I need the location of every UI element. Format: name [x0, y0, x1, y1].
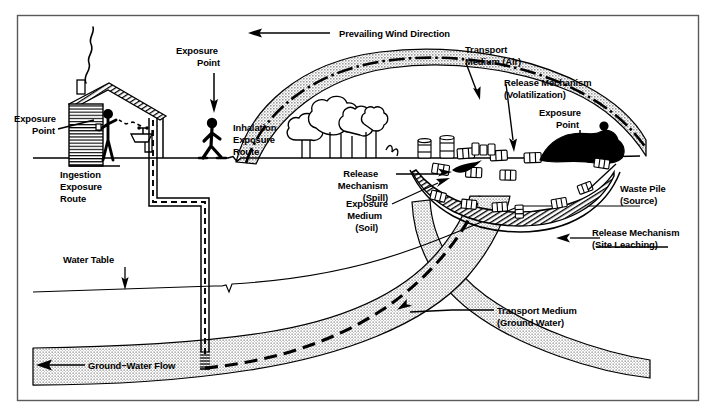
release-spill-label-line1: Release: [343, 168, 378, 179]
release-leaching-label-line2: (Site Leaching): [592, 239, 658, 250]
exposure-medium-soil-arrowhead: [436, 178, 450, 187]
ingestion-route-label-line3: Route: [60, 193, 86, 204]
exposure-point-worker-label-line1: Exposure: [539, 107, 581, 118]
release-leaching-arrowhead: [556, 234, 570, 243]
inhalation-route-label-line1: Inhalation: [233, 122, 277, 133]
exposure-point-house-label-line2: Point: [32, 125, 55, 136]
transport-air-arrowhead: [473, 86, 481, 100]
exposure-medium-soil-label-line3: (Soil): [355, 222, 378, 233]
release-volatilization-label-line2: (Volatilization): [504, 89, 566, 100]
transport-air-label-line2: Medium (Air): [465, 56, 521, 67]
prevailing-wind-arrow: [248, 28, 330, 37]
transport-groundwater-label-line2: (Ground Water): [497, 317, 564, 328]
release-spill-label-line2: Mechanism: [338, 180, 388, 191]
exposure-point-worker-label-line2: Point: [556, 119, 579, 130]
person-walking-icon: [199, 118, 226, 158]
ingestion-dashed-path: [119, 120, 141, 126]
inhalation-route-label-line3: Route: [233, 146, 259, 157]
water-well-icon: [149, 118, 210, 369]
transport-groundwater-label-line1: Transport Medium: [497, 305, 577, 316]
exposure-medium-soil-label-line1: Exposure: [346, 198, 388, 209]
smoke-icon: [85, 27, 93, 83]
transport-air-label-line1: Transport: [465, 44, 507, 55]
exposure-point-house-label-line1: Exposure: [14, 113, 56, 124]
exposure-pathway-diagram: Prevailing Wind Direction Water Table Gr…: [0, 0, 714, 420]
release-volatilization-label-line1: Release Mechanism: [504, 77, 591, 88]
groundwater-flow-label: Ground−Water Flow: [88, 360, 176, 371]
waste-pile-label-line2: (Source): [620, 195, 657, 206]
trees-icon: [287, 96, 398, 158]
exposure-point-walker-label-line1: Exposure: [176, 45, 218, 56]
water-table-label: Water Table: [63, 254, 114, 265]
waste-pile-label-line1: Waste Pile: [620, 183, 666, 194]
exposure-medium-soil-label-line2: Medium: [347, 210, 382, 221]
prevailing-wind-label: Prevailing Wind Direction: [339, 28, 450, 39]
release-volatilization-arrowhead: [509, 138, 517, 152]
release-leaching-label-line1: Release Mechanism: [592, 227, 679, 238]
exposure-point-walker-label-line2: Point: [197, 57, 220, 68]
ingestion-route-label-line2: Exposure: [60, 181, 102, 192]
ingestion-route-label-line1: Ingestion: [60, 169, 101, 180]
figure-canvas: Prevailing Wind Direction Water Table Gr…: [0, 0, 714, 420]
inhalation-route-label-line2: Exposure: [233, 134, 275, 145]
